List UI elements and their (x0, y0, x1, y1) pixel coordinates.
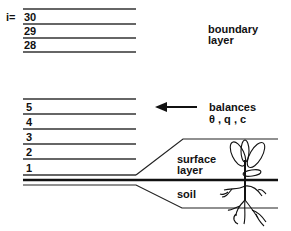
level-label-5: 5 (26, 102, 32, 113)
level-label-29: 29 (24, 26, 36, 37)
boundary-label-line2: layer (208, 35, 234, 46)
level-label-2: 2 (26, 147, 32, 158)
surface-label-line2: layer (177, 165, 203, 176)
balances-label-line2: θ , q , c (209, 114, 246, 125)
lower-level-lines (23, 99, 136, 175)
plant-icon (220, 140, 268, 226)
level-label-3: 3 (26, 132, 32, 143)
level-prefix: i= (6, 12, 15, 23)
upper-level-lines (23, 9, 136, 52)
level-label-30: 30 (24, 12, 36, 23)
balances-label-line1: balances (209, 102, 256, 113)
level-label-4: 4 (26, 117, 32, 128)
level-label-1: 1 (26, 163, 32, 174)
level-label-28: 28 (24, 40, 36, 51)
left-arrow-icon (155, 102, 197, 112)
soil-label: soil (177, 189, 196, 200)
